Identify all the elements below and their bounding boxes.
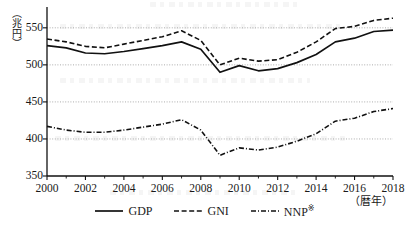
legend-item-nnp: NNP※ [251, 203, 315, 218]
legend-item-gni: GNI [174, 205, 228, 217]
tick-marks-group [43, 28, 393, 180]
x-tick-label: 2008 [181, 182, 221, 194]
series-line-nnp [47, 109, 393, 156]
legend-item-gdp: GDP [95, 205, 152, 217]
x-tick-label: 2000 [27, 182, 67, 194]
legend-swatch-solid-icon [95, 206, 123, 216]
x-tick-label: 2018 [373, 182, 410, 194]
legend-swatch-dashed-icon [174, 206, 202, 216]
y-tick-label: 350 [13, 170, 43, 182]
y-tick-label: 450 [13, 96, 43, 108]
legend-label: NNP※ [284, 203, 315, 218]
series-line-gdp [47, 30, 393, 72]
legend-swatch-dashdot-icon [251, 206, 279, 216]
legend-footnote-mark: ※ [308, 204, 315, 213]
x-tick-label: 2012 [258, 182, 298, 194]
chart-legend: GDPGNINNP※ [0, 203, 410, 218]
axis-lines-group [47, 7, 393, 176]
x-tick-label: 2004 [104, 182, 144, 194]
x-tick-label: 2010 [219, 182, 259, 194]
x-tick-label: 2006 [142, 182, 182, 194]
chart-container: （兆円） 350400450500550 2000200220042006200… [0, 0, 410, 228]
y-tick-label: 500 [13, 59, 43, 71]
x-tick-label: 2016 [335, 182, 375, 194]
y-tick-label: 400 [13, 133, 43, 145]
x-tick-label: 2014 [296, 182, 336, 194]
gridlines-group [47, 28, 393, 139]
legend-label: GDP [128, 205, 152, 217]
y-tick-label: 550 [13, 22, 43, 34]
x-tick-label: 2002 [65, 182, 105, 194]
legend-label: GNI [207, 205, 228, 217]
data-series-group [47, 18, 393, 155]
